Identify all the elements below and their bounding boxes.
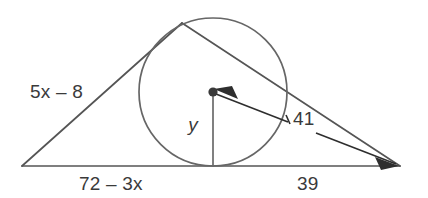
geometry-figure: 5x – 8 72 – 3x 39 41 y xyxy=(0,0,428,198)
label-left-side: 5x – 8 xyxy=(30,81,83,102)
label-bottom-left-text: 72 – 3x xyxy=(79,173,143,194)
arrow-label-tick xyxy=(286,115,290,124)
label-radius: y xyxy=(186,114,199,135)
label-arrow-length: 41 xyxy=(293,108,315,129)
arrow-segment-left xyxy=(216,94,288,122)
label-bottom-left: 72 – 3x xyxy=(79,173,143,194)
geometry-canvas: 5x – 8 72 – 3x 39 41 y xyxy=(0,0,428,198)
label-radius-text: y xyxy=(186,114,199,135)
label-left-side-text: 5x – 8 xyxy=(30,81,83,102)
label-bottom-right: 39 xyxy=(297,173,319,194)
circle-center-dot xyxy=(208,87,217,96)
label-arrow-length-text: 41 xyxy=(293,108,315,129)
label-bottom-right-text: 39 xyxy=(297,173,319,194)
